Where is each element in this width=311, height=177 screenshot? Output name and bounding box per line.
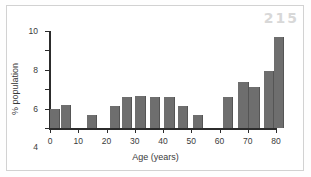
- y-tick-label-6: 6: [33, 104, 38, 114]
- x-tick-80: [276, 128, 277, 133]
- bar: [61, 105, 71, 128]
- x-tick-40: [163, 128, 164, 133]
- bar: [87, 115, 97, 128]
- y-axis-title: % population: [10, 62, 20, 114]
- x-tick-70: [248, 128, 249, 133]
- x-tick-20: [107, 128, 108, 133]
- y-tick-6: 6: [45, 70, 50, 71]
- x-tick-label-30: 30: [130, 136, 139, 146]
- bar: [238, 82, 249, 128]
- bar: [223, 97, 233, 128]
- x-tick-0: [50, 128, 51, 133]
- y-tick-10: 10: [45, 31, 50, 32]
- y-tick-8: 8: [45, 50, 50, 51]
- y-tick-label-10: 10: [29, 26, 38, 36]
- x-tick-label-60: 60: [215, 136, 224, 146]
- bar: [178, 106, 188, 128]
- bar: [110, 106, 120, 128]
- bar: [264, 71, 274, 128]
- x-tick-label-20: 20: [102, 136, 111, 146]
- chart-figure: 215 % population Age (years) 0246810 010…: [0, 0, 311, 177]
- x-tick-50: [191, 128, 192, 133]
- y-tick-4: 4: [45, 89, 50, 90]
- x-tick-label-80: 80: [271, 136, 280, 146]
- bar: [50, 109, 60, 128]
- bar: [122, 97, 132, 128]
- bar: [274, 37, 284, 128]
- x-tick-label-70: 70: [243, 136, 252, 146]
- x-tick-label-0: 0: [48, 136, 53, 146]
- plot-area: 0246810 01020304050607080: [50, 31, 276, 128]
- x-tick-label-40: 40: [158, 136, 167, 146]
- y-tick-label-8: 8: [33, 65, 38, 75]
- x-axis-title: Age (years): [132, 152, 179, 162]
- page-number-watermark: 215: [264, 10, 299, 26]
- x-tick-10: [78, 128, 79, 133]
- bar: [249, 87, 260, 128]
- x-tick-label-10: 10: [74, 136, 83, 146]
- x-tick-label-50: 50: [187, 136, 196, 146]
- x-tick-60: [220, 128, 221, 133]
- bar: [164, 97, 175, 128]
- x-tick-30: [135, 128, 136, 133]
- y-tick-label-4: 4: [33, 142, 38, 152]
- bar: [150, 97, 160, 128]
- bar: [135, 96, 146, 128]
- bar: [193, 115, 203, 128]
